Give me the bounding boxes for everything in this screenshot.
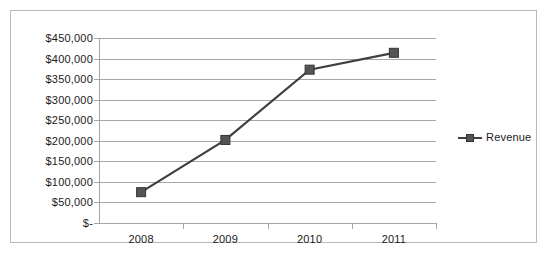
series-revenue [99,31,439,231]
legend-marker-icon [458,132,482,143]
x-axis-tick-label: 2011 [382,233,406,245]
y-axis-tick-label: $300,000 [19,94,93,105]
x-axis-tick-mark [352,224,353,229]
y-axis-tick-label: $150,000 [19,156,93,167]
y-axis-tick-label: $100,000 [19,176,93,187]
y-axis-tick-label: $50,000 [19,197,93,208]
series-line-revenue [141,53,394,192]
y-axis-tick-label: $400,000 [19,53,93,64]
x-axis-tick-mark [183,224,184,229]
data-point-marker-2009 [221,135,230,144]
x-axis-tick-label: 2009 [213,233,238,245]
y-axis-tick-label: $200,000 [19,135,93,146]
y-axis-tick-label: $- [19,218,93,229]
chart-legend: Revenue [458,131,531,143]
y-axis-tick-label: $450,000 [19,33,93,44]
x-axis-tick-label: 2008 [128,233,153,245]
data-point-marker-2010 [305,65,314,74]
y-axis-tick-label: $250,000 [19,115,93,126]
y-axis-labels: $450,000$400,000$350,000$300,000$250,000… [19,11,93,242]
x-axis-tick-label: 2010 [297,233,322,245]
data-point-marker-2011 [389,48,398,57]
chart-frame: $450,000$400,000$350,000$300,000$250,000… [10,10,537,243]
legend-label-revenue: Revenue [486,131,531,143]
revenue-line-chart: $450,000$400,000$350,000$300,000$250,000… [0,0,543,255]
data-point-marker-2008 [137,188,146,197]
y-axis-tick-label: $350,000 [19,74,93,85]
x-axis-tick-mark [268,224,269,229]
x-axis-tick-mark [436,224,437,229]
